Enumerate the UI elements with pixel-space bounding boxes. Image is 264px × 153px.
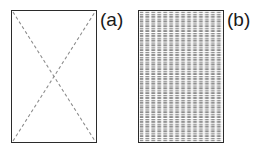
figure-root: (a) (b)	[0, 0, 264, 153]
panel-a-rectangle	[11, 10, 97, 143]
panel-b-rectangle	[138, 10, 224, 143]
panel-b-label: (b)	[227, 10, 250, 29]
panel-b-mesh-fill	[140, 12, 222, 141]
panel-a-label: (a)	[100, 10, 123, 29]
panel-a-diagonals	[12, 11, 96, 142]
panel-b-dashed-mesh	[139, 11, 223, 142]
